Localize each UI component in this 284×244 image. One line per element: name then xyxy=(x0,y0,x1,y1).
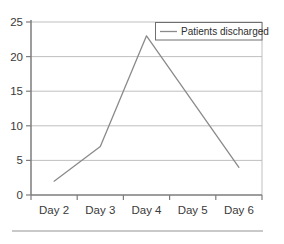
legend-label-patients-discharged: Patients discharged xyxy=(181,26,269,37)
x-tick-label-day-2: Day 2 xyxy=(39,204,69,216)
chart-figure: 25 20 15 10 5 0 Day 2 Day 3 Day 4 Day 5 … xyxy=(0,0,284,244)
y-tick-label-5: 5 xyxy=(17,154,23,166)
x-tick-label-day-3: Day 3 xyxy=(85,204,115,216)
chart-legend[interactable]: Patients discharged xyxy=(156,23,269,41)
x-tick-label-day-5: Day 5 xyxy=(178,204,208,216)
x-tick-label-day-4: Day 4 xyxy=(131,204,162,216)
y-tick-label-25: 25 xyxy=(10,16,23,28)
x-tick-label-day-6: Day 6 xyxy=(224,204,254,216)
y-tick-label-10: 10 xyxy=(10,120,23,132)
y-tick-label-0: 0 xyxy=(17,189,23,201)
y-tick-label-15: 15 xyxy=(10,85,23,97)
line-chart: 25 20 15 10 5 0 Day 2 Day 3 Day 4 Day 5 … xyxy=(0,0,284,244)
y-tick-label-20: 20 xyxy=(10,51,23,63)
